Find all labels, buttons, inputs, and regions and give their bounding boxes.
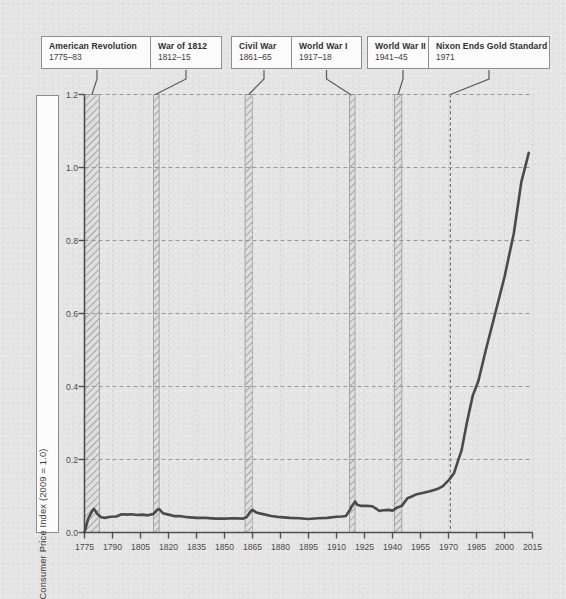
callout-title: American Revolution [49,41,146,51]
x-tick-label-1790: 1790 [103,542,122,552]
x-tick-label-1805: 1805 [131,542,150,552]
callout-title: World War I [299,41,355,51]
y-axis-label-text: Consumer Price Index (2009 = 1.0) [37,448,48,599]
callout-civil-war: Civil War1861–65 [231,36,297,69]
x-tick-label-1865: 1865 [243,542,262,552]
gridlines-group [85,95,533,533]
callout-nixon-ends-gold-standard: Nixon Ends Gold Standard1971 [428,36,550,69]
callout-leader-lines [92,70,489,95]
x-tick-label-1925: 1925 [355,542,374,552]
y-tick-label-1p0: 1.0 [60,163,78,173]
callout-title: Nixon Ends Gold Standard [436,41,543,51]
tick-marks-group [79,95,533,539]
callout-title: World War II [375,41,432,51]
cpi-series-line [85,153,529,533]
x-tick-label-1895: 1895 [299,542,318,552]
y-tick-label-0p0: 0.0 [60,528,78,538]
x-tick-label-1985: 1985 [467,542,486,552]
y-tick-label-0p2: 0.2 [60,455,78,465]
y-axis-label-box: Consumer Price Index (2009 = 1.0) [36,95,59,533]
callout-years: 1861–65 [239,52,290,62]
x-tick-label-1970: 1970 [439,542,458,552]
y-tick-label-0p8: 0.8 [60,236,78,246]
x-tick-label-2000: 2000 [495,542,514,552]
callout-war-of-1812: War of 18121812–15 [150,36,222,69]
y-tick-label-0p4: 0.4 [60,382,78,392]
x-tick-label-1820: 1820 [159,542,178,552]
callout-title: War of 1812 [158,41,215,51]
x-tick-label-1955: 1955 [411,542,430,552]
callout-years: 1941–45 [375,52,432,62]
callout-years: 1917–18 [299,52,355,62]
x-tick-label-2015: 2015 [523,542,542,552]
x-tick-label-1850: 1850 [215,542,234,552]
callout-american-revolution: American Revolution1775–83 [41,36,153,69]
x-tick-label-1880: 1880 [271,542,290,552]
y-tick-label-1p2: 1.2 [60,90,78,100]
callout-world-war-i: World War I1917–18 [291,36,362,69]
y-tick-label-0p6: 0.6 [60,309,78,319]
x-tick-label-1910: 1910 [327,542,346,552]
x-tick-label-1835: 1835 [187,542,206,552]
callout-years: 1775–83 [49,52,146,62]
x-tick-label-1775: 1775 [75,542,94,552]
callout-title: Civil War [239,41,290,51]
x-tick-label-1940: 1940 [383,542,402,552]
callout-years: 1971 [436,52,543,62]
callout-years: 1812–15 [158,52,215,62]
